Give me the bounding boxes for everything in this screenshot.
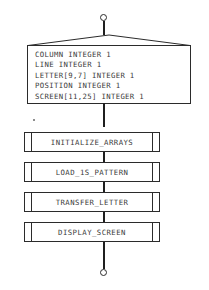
process-label: TRANSFER_LETTER bbox=[25, 193, 159, 211]
process-label: INITIALIZE_ARRAYS bbox=[25, 133, 159, 151]
process-label: DISPLAY_SCREEN bbox=[25, 223, 159, 241]
declaration-line: LINE INTEGER 1 bbox=[35, 60, 190, 70]
declaration-block: COLUMN INTEGER 1 LINE INTEGER 1 LETTER[9… bbox=[27, 34, 191, 104]
connector-step-4-to-end bbox=[103, 242, 105, 269]
process-box-transfer-letter: TRANSFER_LETTER bbox=[24, 192, 160, 212]
connector-start-to-declaration bbox=[103, 21, 105, 35]
end-terminator-icon bbox=[100, 269, 107, 276]
declaration-line: POSITION INTEGER 1 bbox=[35, 81, 190, 91]
declaration-line: COLUMN INTEGER 1 bbox=[35, 50, 190, 60]
start-terminator-icon bbox=[100, 14, 107, 21]
connector-declaration-to-step-1 bbox=[103, 103, 105, 127]
flowchart-diagram: COLUMN INTEGER 1 LINE INTEGER 1 LETTER[9… bbox=[0, 0, 209, 290]
process-box-initialize-arrays: INITIALIZE_ARRAYS bbox=[24, 132, 160, 152]
declaration-body: COLUMN INTEGER 1 LINE INTEGER 1 LETTER[9… bbox=[27, 45, 191, 104]
process-box-display-screen: DISPLAY_SCREEN bbox=[24, 222, 160, 242]
scan-artifact-dot bbox=[33, 119, 35, 121]
process-label: LOAD_1S_PATTERN bbox=[25, 163, 159, 181]
process-box-load-1s-pattern: LOAD_1S_PATTERN bbox=[24, 162, 160, 182]
declaration-line: LETTER[9,7] INTEGER 1 bbox=[35, 71, 190, 81]
declaration-line: SCREEN[11,25] INTEGER 1 bbox=[35, 92, 190, 102]
